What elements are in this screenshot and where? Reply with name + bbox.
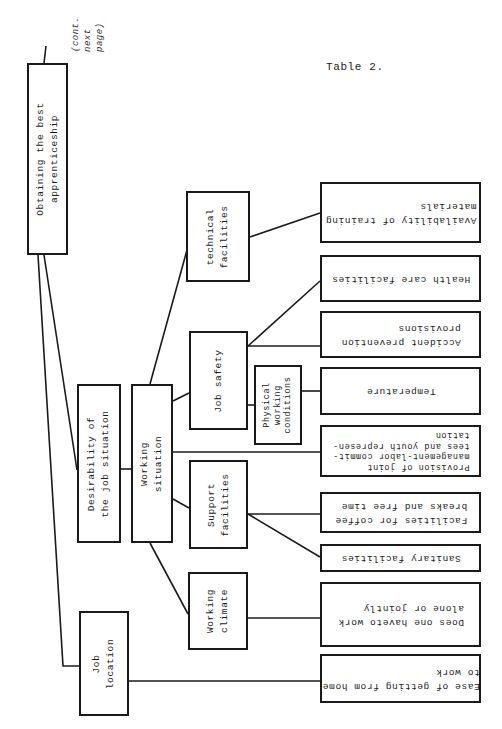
leaf-work-alone-label: Does one haveto work alone or jointly <box>337 601 463 629</box>
table-label: Table 2. <box>326 61 384 73</box>
node-working-situation: Working situation <box>131 384 173 543</box>
leaf-coffee-breaks-label: Facilities for coffee breaks and free ti… <box>334 499 466 527</box>
node-root: Obtaining the best apprenticeship <box>27 63 68 255</box>
leaf-provision-joint-label: Provision of joint management-labor comm… <box>332 430 469 473</box>
leaf-sanitary: Sanitary facilities <box>320 544 481 572</box>
leaf-temperature: Temperature <box>320 367 481 415</box>
node-working-climate: Working climate <box>188 572 248 650</box>
node-technical-facilities-label: technical facilities <box>204 205 232 268</box>
node-physical-working-conditions-label: Physical working conditions <box>262 376 294 433</box>
leaf-ease-commute-label: Ease of getting from home to work <box>322 665 480 693</box>
leaf-temperature-label: Temperature <box>366 384 435 398</box>
leaf-accident-prevention-label: Accident prevention provisions <box>341 321 461 349</box>
leaf-coffee-breaks: Facilities for coffee breaks and free ti… <box>320 492 481 533</box>
node-technical-facilities: technical facilities <box>186 191 250 282</box>
node-working-situation-label: Working situation <box>138 435 166 492</box>
node-job-safety: Job safety <box>189 331 248 430</box>
leaf-ease-commute: Ease of getting from home to work <box>320 654 481 703</box>
leaf-availability-training-label: Availability of training materials <box>325 199 476 227</box>
node-job-safety-label: Job safety <box>212 349 226 412</box>
node-support-facilities-label: Support facilities <box>205 473 233 536</box>
leaf-work-alone: Does one haveto work alone or jointly <box>320 582 481 647</box>
node-job-location: Job location <box>79 611 129 716</box>
leaf-sanitary-label: Sanitary facilities <box>341 551 461 565</box>
leaf-provision-joint: Provision of joint management-labor comm… <box>320 425 481 477</box>
continuation-note: (cont. next page) <box>70 17 106 52</box>
leaf-accident-prevention: Accident prevention provisions <box>320 311 481 358</box>
leaf-availability-training: Availability of training materials <box>320 182 481 243</box>
node-support-facilities: Support facilities <box>189 460 248 549</box>
node-working-climate-label: Working climate <box>204 589 232 633</box>
node-desirability-label: Desirability of the job situation <box>85 410 113 517</box>
leaf-health-care: Health care facilities <box>320 255 481 302</box>
node-root-label: Obtaining the best apprenticeship <box>34 102 62 215</box>
leaf-health-care-label: Health care facilities <box>331 272 470 286</box>
node-job-location-label: Job location <box>90 638 118 688</box>
node-physical-working-conditions: Physical working conditions <box>254 365 302 445</box>
node-desirability: Desirability of the job situation <box>77 384 121 543</box>
